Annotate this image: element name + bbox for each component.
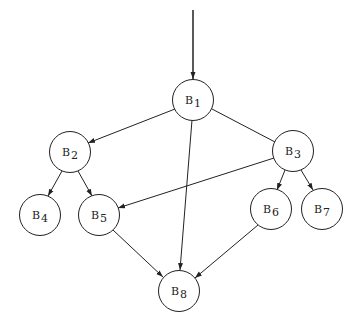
node-subscript: 5 [100,212,107,225]
node-label: B [314,203,322,216]
node-subscript: 1 [194,97,201,110]
node-label: B [185,94,193,107]
node-label: B [91,209,99,222]
node-subscript: 2 [71,149,78,162]
edge-b1-b8 [180,120,192,270]
node-label: B [32,209,40,222]
node-subscript: 4 [41,212,48,225]
node-label: B [171,285,179,298]
node-label: B [62,146,70,159]
node-label: B [285,145,293,158]
node-b7: B7 [301,188,343,230]
edge-b6-b8 [195,225,258,278]
edge-b3-b7 [301,170,313,190]
edge-b5-b8 [113,230,163,277]
node-subscript: 8 [180,288,187,301]
edge-b3-b6 [277,170,285,190]
node-b8: B8 [158,270,200,312]
node-b4: B4 [19,194,61,236]
flow-graph-diagram: B1 B2 B3 B4 B5 B6 B7 B8 [0,0,361,330]
node-b3: B3 [272,130,314,172]
edge-b1-b3 [212,109,275,142]
edge-b2-b5 [78,171,92,196]
edge-b1-b2 [88,109,175,143]
node-label: B [263,203,271,216]
node-b6: B6 [250,188,292,230]
node-subscript: 7 [323,206,330,219]
node-b5: B5 [78,194,120,236]
node-b1: B1 [172,79,214,121]
edge-b2-b4 [48,171,62,196]
node-subscript: 3 [294,148,301,161]
node-subscript: 6 [272,206,279,219]
node-b2: B2 [49,131,91,173]
